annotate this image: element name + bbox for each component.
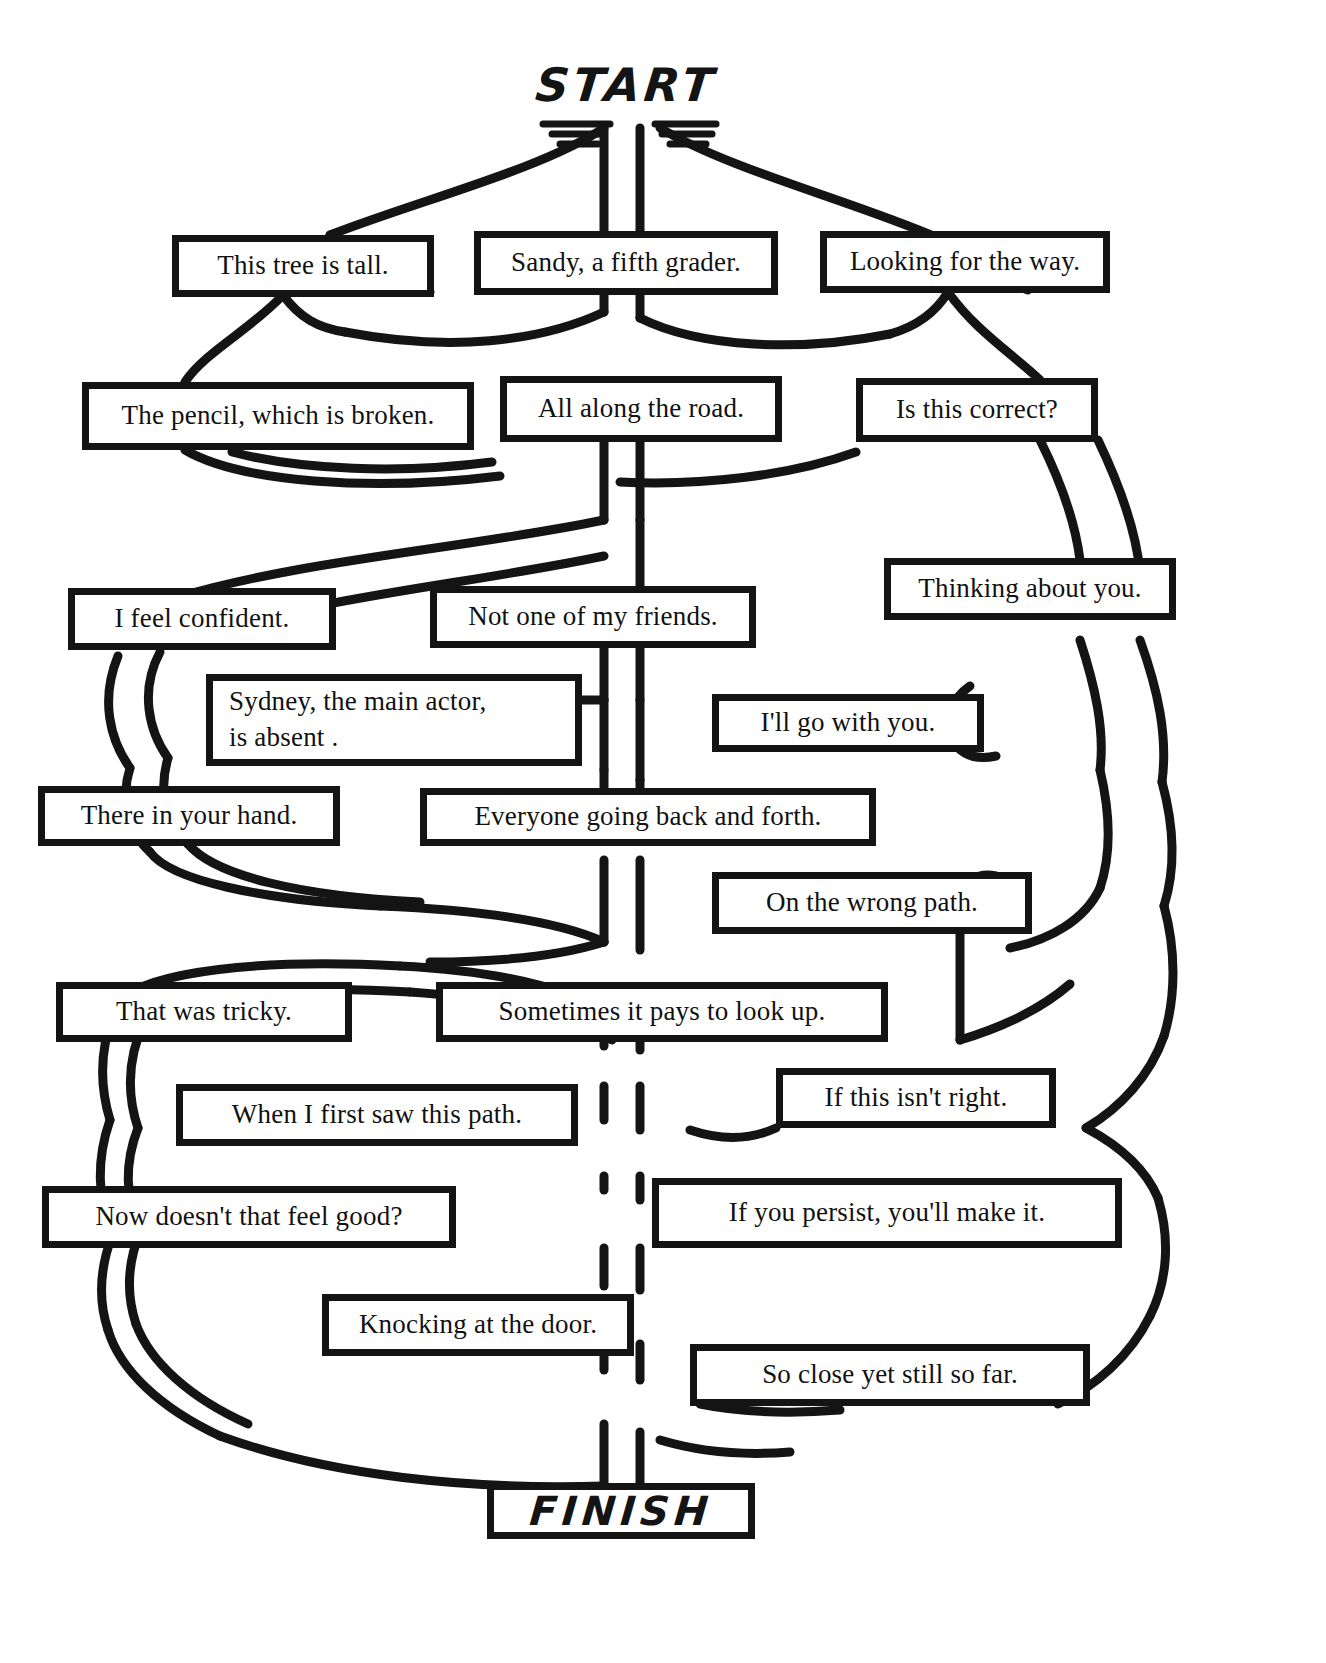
maze-cell[interactable]: Knocking at the door.	[322, 1294, 634, 1356]
maze-cell[interactable]: Thinking about you.	[884, 558, 1176, 620]
maze-cell[interactable]: If this isn't right.	[776, 1068, 1056, 1128]
maze-cell[interactable]: Sandy, a fifth grader.	[474, 231, 778, 295]
maze-cell[interactable]: The pencil, which is broken.	[82, 382, 474, 450]
maze-cell-text: If you persist, you'll make it.	[659, 1195, 1115, 1231]
maze-cell[interactable]: Looking for the way.	[820, 231, 1110, 293]
maze-cell-text: There in your hand.	[45, 798, 333, 834]
maze-cell[interactable]: Sydney, the main actor, is absent .	[206, 674, 582, 766]
finish-label: FINISH	[528, 1488, 715, 1534]
maze-cell[interactable]: So close yet still so far.	[690, 1344, 1090, 1406]
maze-cell-text: Sandy, a fifth grader.	[481, 245, 771, 281]
maze-cell-text: On the wrong path.	[719, 885, 1025, 921]
maze-cell-text: That was tricky.	[63, 994, 345, 1030]
maze-cell-text: Looking for the way.	[827, 244, 1103, 280]
finish-box: FINISH	[487, 1483, 755, 1539]
maze-cell-text: Thinking about you.	[891, 571, 1169, 607]
maze-cell-text: If this isn't right.	[783, 1080, 1049, 1116]
start-label: START	[533, 58, 720, 112]
maze-cell-text: Sydney, the main actor, is absent .	[213, 684, 575, 755]
maze-cell-text: Everyone going back and forth.	[427, 799, 869, 835]
maze-cell-text: All along the road.	[507, 391, 775, 427]
maze-cell-text: Is this correct?	[863, 392, 1091, 428]
maze-cell[interactable]: This tree is tall.	[172, 235, 434, 297]
maze-cell[interactable]: There in your hand.	[38, 786, 340, 846]
worksheet-page: START This tree is tall. Sandy, a fifth …	[0, 0, 1326, 1663]
maze-cell-text: Knocking at the door.	[329, 1307, 627, 1343]
maze-cell-text: I'll go with you.	[719, 705, 977, 741]
maze-cell[interactable]: Is this correct?	[856, 378, 1098, 442]
maze-cell[interactable]: That was tricky.	[56, 982, 352, 1042]
maze-cell-text: Not one of my friends.	[437, 599, 749, 635]
maze-cell-text: When I first saw this path.	[183, 1097, 571, 1133]
maze-cell-text: This tree is tall.	[179, 248, 427, 284]
maze-cell[interactable]: I feel confident.	[68, 588, 336, 650]
maze-cell[interactable]: On the wrong path.	[712, 872, 1032, 934]
maze-cell[interactable]: Sometimes it pays to look up.	[436, 982, 888, 1042]
maze-cell[interactable]: Now doesn't that feel good?	[42, 1186, 456, 1248]
maze-cell[interactable]: Everyone going back and forth.	[420, 788, 876, 846]
maze-cell[interactable]: Not one of my friends.	[430, 586, 756, 648]
maze-cell[interactable]: I'll go with you.	[712, 694, 984, 752]
maze-cell-text: Now doesn't that feel good?	[49, 1199, 449, 1235]
maze-cell-text: I feel confident.	[75, 601, 329, 637]
maze-cell[interactable]: All along the road.	[500, 376, 782, 442]
maze-cell-text: So close yet still so far.	[697, 1357, 1083, 1393]
maze-cell-text: The pencil, which is broken.	[89, 398, 467, 434]
maze-cell-text: Sometimes it pays to look up.	[443, 994, 881, 1030]
maze-cell[interactable]: If you persist, you'll make it.	[652, 1178, 1122, 1248]
maze-cell[interactable]: When I first saw this path.	[176, 1084, 578, 1146]
